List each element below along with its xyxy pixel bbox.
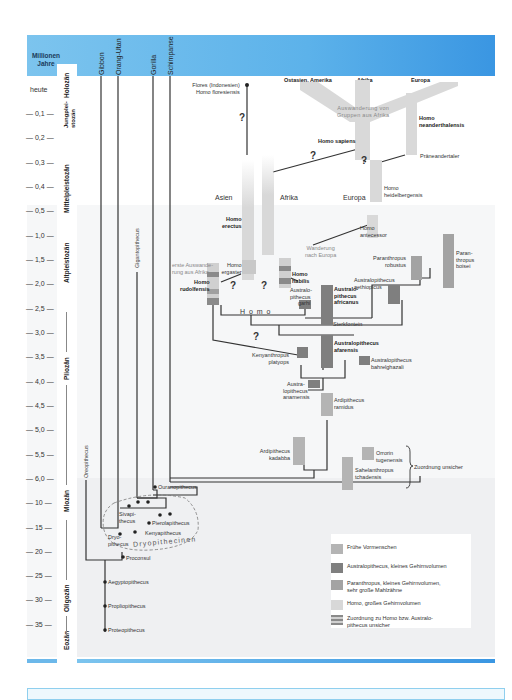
label-australopithecus-aethiopicus: Australopithecusaethiopicus: [354, 277, 395, 290]
label-praeneandertaler: Präneandertaler: [420, 153, 459, 160]
annotation-auswanderung: Auswanderung vonGruppen aus Afrika: [337, 105, 389, 118]
question-mark-kenyanthropus: ?: [253, 331, 259, 342]
label-sahelanthropus-tchadensis: Sahelanthropustchadensis: [355, 467, 394, 480]
label-oreopithecus: Oreopithecus: [83, 445, 89, 478]
label-homo-neanderthalensis: Homoneanderthalensis: [419, 115, 464, 128]
legend-item-homo: Homo, großes Gehirnvolumen: [341, 600, 421, 607]
label-proteopithecus: Proteopithecus: [108, 627, 145, 634]
label-kenyapithecus: Kenyapithecus: [145, 530, 181, 537]
bottom-bar-main: [77, 659, 495, 663]
label-flores: Flores (Indonesien)Homo floresiensis: [190, 82, 240, 95]
label-aegyptopithecus: Aegyptopithecus: [108, 579, 149, 586]
label-ouranopithecus: Ouranopithecus: [158, 484, 197, 491]
legend-swatch: [331, 600, 343, 610]
label-kenyanthropus-platyops: Kenyanthropusplatyops: [252, 352, 289, 365]
label-homo-ergaster: Homoergaster: [219, 262, 242, 275]
label-australopithecus-garhi: Australo-pithecusgarhi: [290, 287, 312, 307]
label-propliopithecus: Propliopithecus: [108, 603, 146, 610]
label-homo-habilis: Homohabilis: [292, 271, 309, 284]
label-zuordnung-unsicher: Zuordnung unsicher: [414, 464, 463, 471]
label-gigantopithecus: Gigantopithecus: [134, 228, 140, 268]
label-sterkfontein: Sterkfontein: [333, 321, 362, 328]
legend-swatch: [331, 563, 343, 573]
label-australopithecus-afarensis: Australopithecusafarensis: [334, 340, 379, 353]
question-mark-sapiens: ?: [310, 150, 316, 161]
label-sivapithecus: Sivapi-thecus: [119, 511, 136, 524]
legend-item-australopithecus: Australopithecus, kleines Gehirnvolumen: [341, 563, 447, 570]
label-pierolapithecus: Pierolapithecus: [152, 520, 190, 527]
bottom-bar-axis: [27, 659, 57, 663]
legend-item-fruehe-vormenschen: Frühe Vormenschen: [341, 544, 397, 551]
label-proconsul: Proconsul: [126, 555, 150, 562]
region-asien: Asien: [215, 195, 233, 202]
label-homo-sapiens: Homo sapiens: [318, 138, 356, 145]
label-homo-heidelbergensis: Homoheidelbergensis: [384, 185, 423, 198]
label-dryopithecus: Dryo-pithecus: [108, 534, 129, 547]
label-paranthropus-robustus: Paranthropusrobustus: [373, 255, 406, 268]
annotation-wanderung: Wanderungnach Europa: [305, 245, 336, 258]
legend-item-paranthropus: Paranthropus, kleines Gehirnvolumen, seh…: [341, 580, 441, 593]
label-homo-antecessor: Homoantecessor: [360, 225, 387, 238]
legend-swatch: [331, 544, 343, 554]
legend: Frühe Vormenschen Australopithecus, klei…: [331, 534, 471, 628]
label-homo-erectus: Homoerectus: [222, 216, 242, 229]
legend-swatch-striped: [331, 615, 343, 625]
footer-box: [27, 688, 505, 700]
region-europa: Europa: [343, 195, 366, 202]
legend-swatch: [331, 580, 343, 590]
legend-item-unsicher: Zuordnung zu Homo bzw. Australo- pithecu…: [341, 615, 433, 628]
label-ardipithecus-ramidus: Ardipithecusramidus: [334, 397, 364, 410]
label-homo-rudolfensis: Homorudolfensis: [180, 279, 210, 292]
label-australopithecus-anamensis: Austra-lopithecusanamensis: [283, 381, 310, 401]
label-orrorin-tugenensis: Orrorintugenensis: [376, 450, 403, 463]
annotation-erste-auswanderung: erste Auswande-rung aus Afrika: [172, 262, 213, 275]
label-ardipithecus-kadabba: Ardipithecuskadabba: [259, 448, 290, 461]
label-paranthropus-boisei: Paran-thropusboisei: [456, 250, 474, 270]
question-mark-flores: ?: [239, 112, 245, 123]
label-australopithecus-bahrelghazali: Australopithecusbahrelghazali: [371, 357, 412, 370]
label-homo-genus: H o m o: [240, 309, 272, 316]
region-afrika: Afrika: [280, 195, 298, 202]
question-mark-rudolfensis: ?: [230, 280, 236, 291]
question-mark-heidelbergensis: ?: [361, 155, 367, 166]
question-mark-habilis: ?: [261, 280, 267, 291]
